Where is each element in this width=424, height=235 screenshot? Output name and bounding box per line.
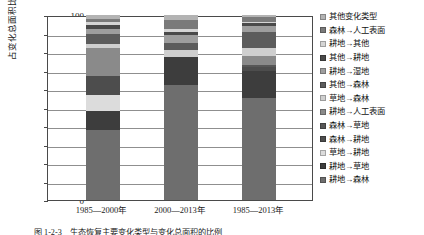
legend-label: 耕地→其他: [329, 39, 369, 48]
legend-item: 耕地→其他: [320, 37, 424, 51]
bar-segment: [164, 35, 198, 42]
legend-label: 耕地→草地: [329, 162, 369, 171]
legend-label: 其他→耕地: [329, 53, 369, 62]
legend-swatch-icon: [320, 109, 326, 115]
figure-caption: 图 1-2-3 生态恢复主要变化类型与变化总面积的比例: [34, 225, 394, 235]
bar-segment: [242, 98, 276, 200]
bar-segment: [86, 130, 120, 200]
bar-segment: [242, 32, 276, 49]
legend-item: 草地→耕地: [320, 146, 424, 160]
legend-item: 其他变化类型: [320, 10, 424, 24]
bar-segment: [86, 76, 120, 95]
legend-label: 耕地→湿地: [329, 67, 369, 76]
legend-item: 森林→耕地: [320, 132, 424, 146]
legend-swatch-icon: [320, 27, 326, 33]
legend-label: 森林→耕地: [329, 135, 369, 144]
bar-stack: [86, 15, 120, 200]
legend-label: 耕地→森林: [329, 175, 369, 184]
bar-segment: [164, 57, 198, 86]
figure-stacked-bar-chart: 占变化总面积比例/% 0102030405060708090100 1985—2…: [0, 0, 424, 235]
legend-item: 其他→森林: [320, 78, 424, 92]
legend-label: 草地→耕地: [329, 148, 369, 157]
legend-swatch-icon: [320, 82, 326, 88]
legend-label: 森林→草地: [329, 121, 369, 130]
legend: 其他变化类型森林→人工表面耕地→其他其他→耕地耕地→湿地其他→森林草地→森林耕地…: [320, 10, 424, 187]
legend-swatch-icon: [320, 177, 326, 183]
bar-segment: [86, 34, 120, 43]
bar-segment: [164, 20, 198, 29]
x-tick-label: 1985—2013年: [221, 203, 295, 215]
legend-swatch-icon: [320, 123, 326, 129]
x-tick-label: 1985—2000年: [65, 203, 139, 215]
legend-item: 森林→人工表面: [320, 24, 424, 38]
legend-swatch-icon: [320, 150, 326, 156]
legend-swatch-icon: [320, 68, 326, 74]
bar-stack: [242, 15, 276, 200]
legend-item: 耕地→草地: [320, 160, 424, 174]
legend-label: 草地→森林: [329, 94, 369, 103]
y-tick-mark: [44, 201, 48, 202]
legend-swatch-icon: [320, 55, 326, 61]
legend-label: 其他→森林: [329, 80, 369, 89]
legend-label: 森林→人工表面: [329, 26, 385, 35]
bar-segment: [242, 71, 276, 99]
legend-swatch-icon: [320, 41, 326, 47]
x-tick-label: 2000—2013年: [143, 203, 217, 215]
bar-segment: [86, 95, 120, 112]
bar-segment: [164, 43, 198, 50]
legend-item: 耕地→湿地: [320, 64, 424, 78]
legend-item: 森林→草地: [320, 119, 424, 133]
legend-label: 耕地→人工表面: [329, 107, 385, 116]
legend-swatch-icon: [320, 136, 326, 142]
legend-swatch-icon: [320, 95, 326, 101]
bar-segment: [86, 48, 120, 76]
bar-segment: [242, 48, 276, 55]
bar-stack: [164, 15, 198, 200]
legend-label: 其他变化类型: [329, 12, 377, 21]
legend-swatch-icon: [320, 14, 326, 20]
bar-segment: [86, 111, 120, 130]
bar-segment: [164, 85, 198, 200]
legend-item: 耕地→人工表面: [320, 105, 424, 119]
legend-swatch-icon: [320, 163, 326, 169]
legend-item: 耕地→森林: [320, 173, 424, 187]
legend-item: 其他→耕地: [320, 51, 424, 65]
bar-segment: [242, 56, 276, 65]
plot-area: [47, 16, 313, 201]
legend-item: 草地→森林: [320, 92, 424, 106]
